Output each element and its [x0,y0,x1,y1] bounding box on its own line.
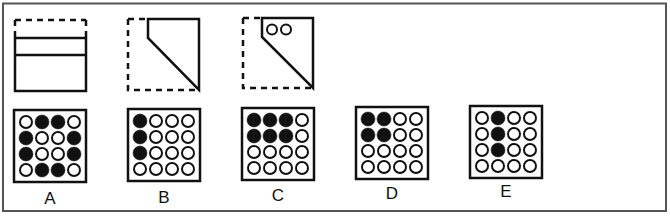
empty-hole [264,162,276,174]
empty-hole [476,112,488,124]
filled-hole [279,113,293,127]
empty-hole [36,132,48,144]
empty-hole [182,163,194,175]
empty-hole [362,145,374,157]
empty-hole [248,146,260,158]
filled-hole [19,147,33,161]
outer-frame [3,4,666,212]
filled-hole [361,112,375,126]
empty-hole [166,131,178,143]
empty-hole [410,145,422,157]
empty-hole [182,147,194,159]
empty-hole [166,115,178,127]
empty-hole [280,162,292,174]
filled-hole [67,131,81,145]
empty-hole [508,144,520,156]
filled-hole [491,111,505,125]
empty-hole [296,130,308,142]
filled-hole [19,131,33,145]
empty-hole [150,131,162,143]
empty-hole [524,112,536,124]
empty-hole [394,161,406,173]
fold-step-3 [243,18,313,88]
filled-hole [491,143,505,157]
empty-hole [134,163,146,175]
empty-hole [476,160,488,172]
option-e[interactable]: E [470,106,542,201]
empty-hole [150,115,162,127]
empty-hole [524,144,536,156]
filled-hole [51,163,65,177]
filled-hole [133,130,147,144]
empty-hole [68,116,80,128]
empty-hole [524,160,536,172]
option-d[interactable]: D [356,107,428,203]
filled-hole [263,113,277,127]
option-c[interactable]: C [242,108,314,205]
empty-hole [68,164,80,176]
option-a[interactable]: A [14,110,86,208]
option-label: D [386,184,398,203]
option-b[interactable]: B [128,109,200,207]
empty-hole [378,161,390,173]
empty-hole [150,147,162,159]
empty-hole [36,148,48,160]
filled-hole [133,146,147,160]
empty-hole [182,131,194,143]
punched-hole [281,25,291,35]
empty-hole [248,162,260,174]
punched-hole [267,25,277,35]
empty-hole [476,128,488,140]
empty-hole [508,160,520,172]
option-label: C [272,186,284,205]
empty-hole [524,128,536,140]
fold-step-2 [128,19,199,90]
filled-hole [133,114,147,128]
empty-hole [362,161,374,173]
empty-hole [394,145,406,157]
empty-hole [492,160,504,172]
empty-hole [410,113,422,125]
filled-hole [247,129,261,143]
filled-hole [263,129,277,143]
filled-hole [491,127,505,141]
empty-hole [394,113,406,125]
empty-hole [166,163,178,175]
empty-hole [394,129,406,141]
filled-hole [247,113,261,127]
filled-hole [279,129,293,143]
filled-hole [377,128,391,142]
empty-hole [508,112,520,124]
filled-hole [35,163,49,177]
filled-hole [67,147,81,161]
filled-hole [361,128,375,142]
empty-hole [410,129,422,141]
paper-folding-puzzle: ABCDE [0,0,670,216]
empty-hole [52,132,64,144]
filled-hole [51,115,65,129]
empty-hole [150,163,162,175]
filled-hole [377,112,391,126]
empty-hole [20,116,32,128]
option-label: B [158,188,169,207]
answer-options: ABCDE [14,106,542,208]
empty-hole [166,147,178,159]
option-label: A [44,189,56,208]
option-label: E [500,182,511,201]
empty-hole [280,146,292,158]
empty-hole [378,145,390,157]
empty-hole [410,161,422,173]
fold-step-1 [15,20,86,91]
empty-hole [476,144,488,156]
empty-hole [20,164,32,176]
empty-hole [296,114,308,126]
empty-hole [296,162,308,174]
empty-hole [508,128,520,140]
empty-hole [296,146,308,158]
empty-hole [52,148,64,160]
empty-hole [264,146,276,158]
empty-hole [182,115,194,127]
filled-hole [35,115,49,129]
